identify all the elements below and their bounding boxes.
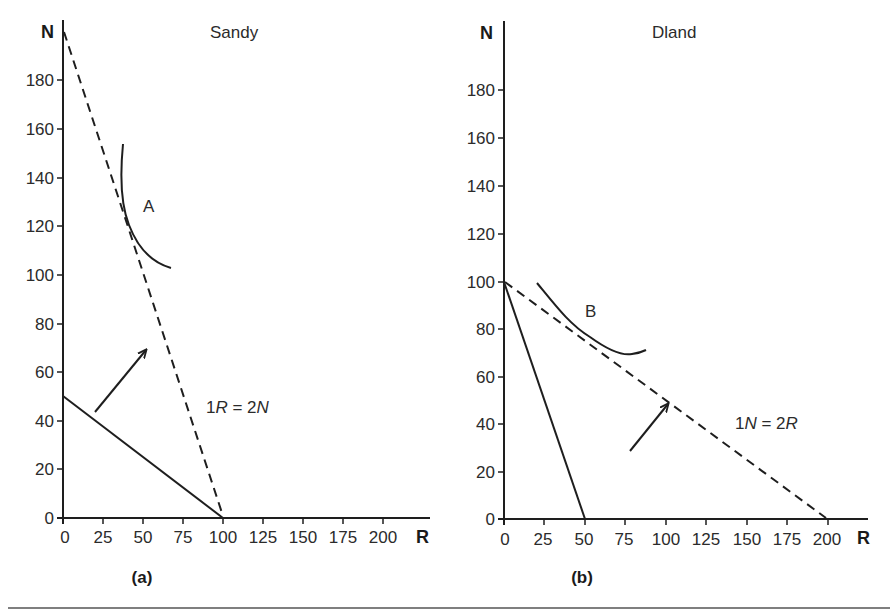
panel-label-b: (b) [571,568,593,587]
y-tick-labels-a: 0 20 40 60 80 100 120 140 160 180 [26,71,54,528]
equation-label-a: 1R = 2N [206,398,270,417]
chart-title-a: Sandy [210,23,259,42]
y-tick-label: 40 [35,412,54,431]
x-tick-label: 200 [369,528,397,547]
panel-label-a: (a) [132,568,153,587]
production-line-b [504,282,585,519]
x-tick-label: 150 [289,528,317,547]
y-axis-title-b: N [480,23,493,43]
production-line-a [63,396,223,518]
y-tick-label: 100 [467,273,495,292]
x-tick-label: 75 [174,528,193,547]
y-tick-label: 0 [45,509,54,528]
x-tick-label: 125 [692,530,720,549]
y-tick-labels-b: 0 20 40 60 80 100 120 140 160 180 [467,81,495,529]
x-tick-label: 0 [500,530,509,549]
y-tick-label: 100 [26,266,54,285]
y-tick-label: 140 [26,169,54,188]
trade-line-a [64,32,223,516]
x-tick-label: 25 [534,530,553,549]
figure: 0 20 40 60 80 100 120 140 160 180 0 25 [0,0,894,615]
x-tick-label: 175 [329,528,357,547]
x-tick-label: 50 [575,530,594,549]
y-tick-label: 120 [26,217,54,236]
y-tick-label: 160 [26,120,54,139]
x-tick-label: 25 [94,528,113,547]
y-tick-label: 180 [26,71,54,90]
y-tick-label: 60 [35,363,54,382]
y-tick-label: 180 [467,81,495,100]
shift-arrow-b [630,404,668,451]
curve-label-b: B [585,302,596,321]
chart-panel-b: 0 20 40 60 80 100 120 140 160 180 0 25 [467,21,870,587]
equation-label-b: 1N = 2R [735,414,798,433]
x-tick-label: 150 [733,530,761,549]
x-tick-label: 100 [209,528,237,547]
y-tick-label: 160 [467,129,495,148]
y-tick-label: 80 [35,315,54,334]
y-tick-label: 0 [486,510,495,529]
x-axis-title-a: R [416,527,429,547]
shift-arrow-a [95,350,146,412]
y-tick-label: 20 [35,460,54,479]
curve-label-a: A [143,197,155,216]
y-tick-label: 80 [476,320,495,339]
y-tick-label: 140 [467,177,495,196]
chart-panel-a: 0 20 40 60 80 100 120 140 160 180 0 25 [26,20,430,587]
x-tick-label: 200 [813,530,841,549]
y-axis-title-a: N [41,22,54,42]
x-tick-label: 50 [134,528,153,547]
y-tick-label: 20 [476,463,495,482]
x-tick-label: 75 [615,530,634,549]
x-tick-label: 175 [773,530,801,549]
y-tick-label: 120 [467,225,495,244]
trade-line-b [505,282,826,518]
x-tick-label: 100 [652,530,680,549]
x-tick-labels-a: 0 25 50 75 100 125 150 175 200 [60,528,397,547]
x-tick-label: 0 [60,528,69,547]
chart-title-b: Dland [652,23,696,42]
x-axis-title-b: R [857,528,870,548]
x-tick-label: 125 [249,528,277,547]
y-tick-label: 60 [476,368,495,387]
y-tick-label: 40 [476,415,495,434]
x-tick-labels-b: 0 25 50 75 100 125 150 175 200 [500,530,841,549]
